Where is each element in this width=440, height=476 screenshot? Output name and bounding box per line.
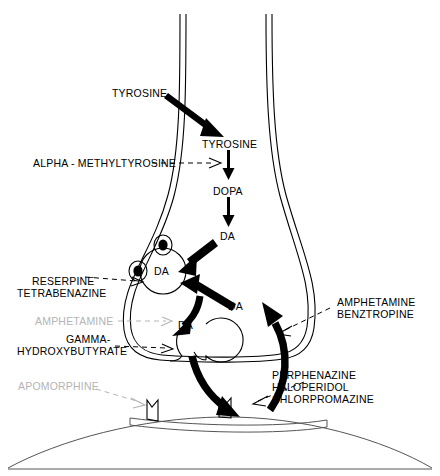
exocytosis-arrow xyxy=(192,356,240,417)
label-perphenazine: PERPHENAZINE xyxy=(272,369,356,381)
label-benztropine: BENZTROPINE xyxy=(337,308,414,320)
label-da-cytosol: DA xyxy=(178,319,193,331)
label-gamma-line1: GAMMA- xyxy=(66,333,111,345)
terminal-right-outer-membrane xyxy=(272,14,315,359)
terminal-bottom-inner-membrane xyxy=(162,354,280,357)
release-vesicle xyxy=(194,318,243,362)
label-reserpine: RESERPINE xyxy=(32,275,94,287)
postsynaptic-density xyxy=(130,418,327,432)
figure-canvas: TYROSINE TYROSINE ALPHA - METHYLTYROSINE… xyxy=(0,0,440,476)
dopamine-receptor-left xyxy=(147,400,158,421)
terminal-left-outer-membrane xyxy=(123,14,180,360)
terminal-left-inner-membrane xyxy=(130,14,186,355)
label-dopa: DOPA xyxy=(213,185,243,197)
label-amphetamine-right: AMPHETAMINE xyxy=(337,296,415,308)
label-alpha-methyltyrosine: ALPHA - METHYLTYROSINE xyxy=(33,157,176,169)
label-amphetamine-left: AMPHETAMINE xyxy=(35,315,113,327)
label-da-synth: DA xyxy=(220,230,235,242)
amphetamine-benztropine-pointer xyxy=(278,308,330,336)
synapse-diagram: TYROSINE TYROSINE ALPHA - METHYLTYROSINE… xyxy=(0,0,440,476)
dopa-to-da-arrow xyxy=(223,197,235,227)
label-chlorpromazine: CHLORPROMAZINE xyxy=(272,393,374,405)
apomorphine-pointer xyxy=(96,389,145,408)
dense-core-granule-upper xyxy=(154,235,172,255)
label-haloperidol: HALOPERIDOL xyxy=(272,381,349,393)
label-tyrosine-internal: TYROSINE xyxy=(202,138,257,150)
label-apomorphine: APOMORPHINE xyxy=(18,380,99,392)
label-da-vesicle: DA xyxy=(154,265,169,277)
amphetamine-left-pointer xyxy=(118,317,172,326)
label-da-cleft: DA xyxy=(228,300,243,312)
label-gamma-line2: HYDROXYBUTYRATE xyxy=(17,345,127,357)
label-tyrosine-external: TYROSINE xyxy=(112,87,167,99)
da-into-vesicle-arrow xyxy=(178,239,218,276)
dense-core-granule-left xyxy=(129,261,147,281)
tyrosine-uptake-arrow xyxy=(164,93,224,137)
label-tetrabenazine: TETRABENAZINE xyxy=(17,287,107,299)
tyrosine-to-dopa-arrow xyxy=(223,150,235,180)
